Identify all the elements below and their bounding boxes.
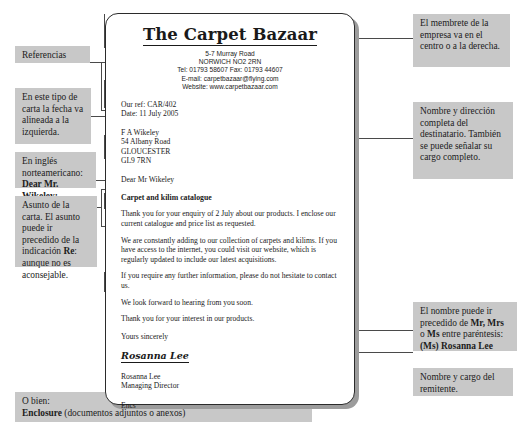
recipient-line-4: GL9 7RN: [121, 156, 339, 165]
note-letterhead: El membrete de la empresa va en el centr…: [413, 14, 510, 67]
note-recipient-text: Nombre y dirección completa del destinat…: [420, 106, 501, 162]
address-line-1: 5-7 Murray Road: [121, 50, 339, 58]
business-letter: The Carpet Bazaar 5-7 Murray Road NORWIC…: [105, 13, 355, 405]
letter-subject: Carpet and kilim catalogue: [121, 193, 339, 202]
body-paragraph-1: Thank you for your enquiry of 2 July abo…: [121, 209, 339, 228]
note-sender-text: Nombre y cargo del remitente.: [420, 372, 495, 394]
recipient-line-3: GLOUCESTER: [121, 147, 339, 156]
signer-name: Rosanna Lee: [121, 372, 339, 381]
note-name-bold-3: (Ms) Rosanna Lee: [420, 341, 493, 351]
address-line-2: NORWICH NO2 2RN: [121, 58, 339, 66]
note-subject-re: Re: [63, 246, 74, 256]
note-subject: Asunto de la carta. El asunto puede ir p…: [15, 196, 97, 267]
note-recipient: Nombre y dirección completa del destinat…: [413, 102, 513, 179]
body-paragraph-4: We look forward to hearing from you soon…: [121, 298, 339, 308]
address-line-5: Website: www.carpetbazaar.com: [121, 83, 339, 91]
note-american-english: En inglés norteamericano: Dear Mr. Wikel…: [15, 152, 96, 188]
note-references-text: Referencias: [22, 50, 66, 60]
note-date-alignment: En este tipo de carta la fecha va alinea…: [15, 88, 91, 144]
signer-block: Rosanna Lee Managing Director: [121, 372, 339, 391]
our-ref: Our ref: CAR/402: [121, 100, 339, 109]
note-name-text-b: o: [420, 329, 427, 339]
leader-line-date-h: [90, 116, 106, 117]
note-date-alignment-text: En este tipo de carta la fecha va alinea…: [22, 92, 83, 137]
body-paragraph-3: If you require any further information, …: [121, 271, 339, 290]
note-sender: Nombre y cargo del remitente.: [413, 368, 513, 396]
salutation: Dear Mr Wikeley: [121, 175, 339, 184]
recipient-address: F A Wikeley 54 Albany Road GLOUCESTER GL…: [121, 128, 339, 166]
leader-bracket-references: [101, 62, 102, 110]
complimentary-close: Yours sincerely: [121, 332, 339, 341]
body-paragraph-2: We are constantly adding to our collecti…: [121, 236, 339, 265]
recipient-line-2: 54 Albany Road: [121, 137, 339, 146]
note-american-english-text: En inglés norteamericano:: [22, 156, 83, 178]
note-enclosure-text-a: O bien:: [22, 396, 50, 406]
letterhead: The Carpet Bazaar 5-7 Murray Road NORWIC…: [121, 22, 339, 91]
note-references: Referencias: [15, 46, 90, 63]
note-letterhead-text: El membrete de la empresa va en el centr…: [420, 18, 500, 51]
leader-line-references-h: [90, 62, 102, 63]
note-name-bold-2: Ms: [427, 329, 440, 339]
address-line-3: Tel: 01793 58607 Fax: 01793 44607: [121, 66, 339, 74]
handwritten-signature: Rosanna Lee: [121, 350, 189, 363]
recipient-line-1: F A Wikeley: [121, 128, 339, 137]
signer-title: Managing Director: [121, 381, 339, 390]
company-address: 5-7 Murray Road NORWICH NO2 2RN Tel: 017…: [121, 50, 339, 91]
note-enclosure-bold: Enclosure: [22, 408, 62, 418]
address-line-4: E-mail: carpetbazaar@flying.com: [121, 75, 339, 83]
enclosure-marker: Encs: [121, 401, 339, 410]
letter-date: Date: 11 July 2005: [121, 109, 339, 118]
annotated-letter-diagram: The Carpet Bazaar 5-7 Murray Road NORWIC…: [0, 0, 522, 434]
note-name-bold-1: Mr, Mrs: [471, 318, 505, 328]
body-paragraph-5: Thank you for your interest in our produ…: [121, 314, 339, 324]
note-name-title: El nombre puede ir precedido de Mr, Mrs …: [413, 302, 517, 351]
company-name: The Carpet Bazaar: [143, 25, 317, 46]
leader-line-sender: [355, 352, 413, 353]
note-name-text-c: entre paréntesis:: [440, 329, 504, 339]
reference-block: Our ref: CAR/402 Date: 11 July 2005: [121, 100, 339, 119]
